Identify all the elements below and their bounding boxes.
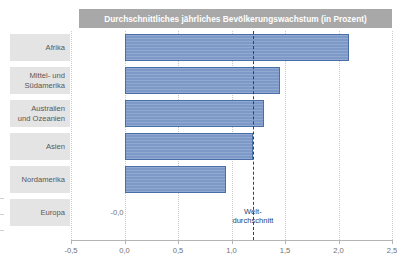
- world-average-label: Welt- durchschnitt: [232, 207, 273, 225]
- x-axis-tick-label: 2,5: [387, 246, 397, 255]
- category-label-afrika[interactable]: Afrika: [10, 34, 70, 61]
- chart-row: [71, 166, 392, 199]
- chart-title: Durchschnittliches jährliches Bevölkerun…: [104, 14, 367, 24]
- edge-mark: [0, 214, 4, 215]
- category-label-text: Mittel- und Südamerika: [24, 71, 65, 90]
- x-axis-tick: [285, 240, 286, 244]
- chart-title-banner: Durchschnittliches jährliches Bevölkerun…: [79, 9, 392, 28]
- chart-row: [71, 67, 392, 100]
- category-label-text: Asien: [46, 142, 65, 151]
- gridline-2-5: [392, 31, 393, 240]
- x-axis-tick-label: 1,0: [226, 246, 237, 255]
- x-axis-tick: [339, 240, 340, 244]
- x-axis-tick-label: 0,5: [173, 246, 184, 255]
- x-axis-tick-label: 0,0: [119, 246, 130, 255]
- chart-row: [71, 34, 392, 67]
- x-axis-tick-label: -0,5: [64, 246, 77, 255]
- bar-value-label: -0,0: [111, 208, 124, 217]
- category-label-text: Nordamerika: [22, 175, 65, 184]
- x-axis-tick: [232, 240, 233, 244]
- category-label-mittel-und[interactable]: Mittel- und Südamerika: [10, 67, 70, 94]
- edge-mark: [0, 230, 4, 231]
- x-axis-tick: [178, 240, 179, 244]
- chart-row: [71, 133, 392, 166]
- category-label-australien[interactable]: Australien und Ozeanien: [10, 100, 70, 127]
- bar[interactable]: [125, 100, 264, 127]
- bar[interactable]: [125, 67, 280, 94]
- chart-row: [71, 100, 392, 133]
- edge-mark: [0, 198, 4, 199]
- x-axis-tick: [125, 240, 126, 244]
- category-label-text: Afrika: [46, 43, 65, 52]
- x-axis-tick: [71, 240, 72, 244]
- bar[interactable]: [125, 34, 350, 61]
- category-label-text: Europa: [41, 208, 66, 217]
- category-label-nordamerika[interactable]: Nordamerika: [10, 166, 70, 193]
- category-label-asien[interactable]: Asien: [10, 133, 70, 160]
- bar[interactable]: [125, 133, 253, 160]
- x-axis-tick-label: 1,5: [280, 246, 291, 255]
- bar[interactable]: [125, 166, 227, 193]
- x-axis-tick: [392, 240, 393, 244]
- category-label-text: Australien und Ozeanien: [18, 104, 65, 123]
- x-axis-tick-label: 2,0: [333, 246, 344, 255]
- category-label-europa[interactable]: Europa: [10, 199, 70, 226]
